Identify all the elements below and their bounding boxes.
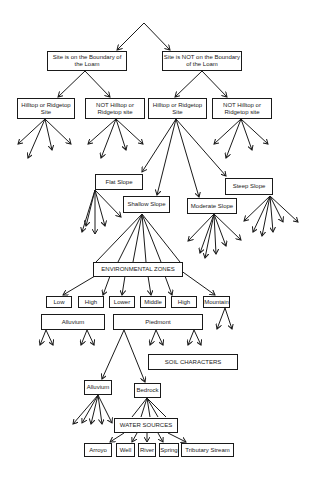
node-water-arroyo: Arroyo: [84, 443, 112, 457]
node-soil-alluvium: Alluvium: [84, 380, 112, 395]
node-not-hilltop-site-right: NOT Hilltop or Ridgetop site: [212, 98, 272, 119]
node-environmental-zones: ENVIRONMENTAL ZONES: [93, 262, 183, 277]
node-moderate-slope: Moderate Slope: [187, 198, 237, 214]
node-label: Flat Slope: [105, 179, 132, 186]
node-label: Hilltop or Ridgetop Site: [149, 102, 206, 116]
node-label: Middle: [144, 299, 162, 306]
node-zone-mountain: Mountain: [203, 296, 230, 308]
node-not-hilltop-site-left: NOT Hilltop or Ridgetop site: [85, 98, 145, 119]
node-shallow-slope: Shallow Slope: [123, 196, 170, 213]
node-label: Mountain: [204, 299, 229, 306]
node-label: Shallow Slope: [127, 201, 165, 208]
node-zone-high-2: High: [171, 296, 197, 308]
node-group-piedmont: Piedmont: [113, 314, 203, 330]
node-label: Spring: [160, 447, 177, 454]
node-site-not-on-boundary: Site is NOT on the Boundary of the Loam: [162, 51, 242, 71]
node-water-sources: WATER SOURCES: [114, 418, 178, 433]
node-water-spring: Spring: [159, 443, 179, 457]
node-water-well: Well: [116, 443, 135, 457]
node-label: Site is NOT on the Boundary of the Loam: [163, 54, 241, 68]
node-label: ENVIRONMENTAL ZONES: [101, 266, 174, 273]
node-water-river: River: [138, 443, 156, 457]
node-site-on-boundary: Site is on the Boundary of the Loam: [47, 51, 127, 71]
node-label: Tributary Stream: [185, 447, 229, 454]
node-label: High: [178, 299, 190, 306]
node-label: Low: [53, 299, 64, 306]
node-label: SOIL CHARACTERS: [165, 359, 221, 366]
node-soil-bedrock: Bedrock: [134, 383, 161, 398]
node-label: Arroyo: [89, 447, 107, 454]
node-label: Hilltop or Ridgetop Site: [18, 102, 74, 116]
node-hilltop-site-right: Hilltop or Ridgetop Site: [148, 98, 207, 119]
node-label: NOT Hilltop or Ridgetop site: [213, 102, 271, 116]
node-label: NOT Hilltop or Ridgetop site: [86, 102, 144, 116]
node-label: River: [140, 447, 154, 454]
node-zone-lower: Lower: [109, 296, 135, 308]
node-group-alluvium: Alluvium: [41, 314, 105, 330]
node-label: Moderate Slope: [191, 203, 233, 210]
node-label: Site is on the Boundary of the Loam: [48, 54, 126, 68]
node-zone-low: Low: [46, 296, 72, 308]
node-soil-characters: SOIL CHARACTERS: [148, 354, 238, 370]
node-label: Alluvium: [62, 319, 85, 326]
node-label: Lower: [114, 299, 130, 306]
node-label: Piedmont: [145, 319, 170, 326]
node-label: Steep Slope: [233, 183, 266, 190]
node-hilltop-site-left: Hilltop or Ridgetop Site: [17, 98, 75, 119]
node-label: Alluvium: [87, 384, 110, 391]
node-steep-slope: Steep Slope: [225, 178, 273, 195]
node-label: Bedrock: [136, 387, 158, 394]
node-flat-slope: Flat Slope: [95, 174, 143, 190]
node-label: High: [85, 299, 97, 306]
node-water-tributary-stream: Tributary Stream: [181, 443, 234, 457]
connector-arrows: [0, 0, 318, 481]
node-label: Well: [120, 447, 132, 454]
node-zone-middle: Middle: [140, 296, 166, 308]
node-label: WATER SOURCES: [120, 422, 172, 429]
node-zone-high-1: High: [78, 296, 104, 308]
